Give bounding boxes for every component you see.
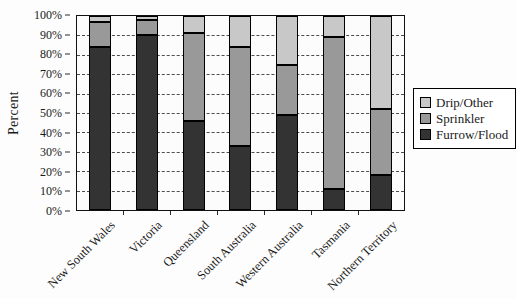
bar-segment-furrow-flood: [136, 35, 158, 210]
bar-segment-drip-other: [229, 16, 251, 47]
x-tick-mark: [123, 211, 124, 215]
stacked-bar: [276, 16, 298, 210]
x-category-label: Western Australia: [204, 218, 307, 299]
stacked-bar: [229, 16, 251, 210]
bar-segment-sprinkler: [136, 20, 158, 36]
legend-label: Drip/Other: [436, 95, 493, 110]
legend-swatch: [420, 129, 431, 140]
bar-segment-sprinkler: [370, 109, 392, 175]
bar-slot: [170, 16, 217, 210]
bar-segment-furrow-flood: [183, 121, 205, 210]
legend-swatch: [420, 97, 431, 108]
legend-item: Drip/Other: [420, 95, 508, 110]
x-tick-mark: [264, 211, 265, 215]
y-tick-mark: [65, 152, 70, 153]
stacked-bar: [136, 16, 158, 210]
x-tick-mark: [170, 211, 171, 215]
x-category-label: Tasmania: [251, 218, 354, 299]
y-axis-tick-labels: 100%90%80%70%60%50%40%30%20%10%0%: [0, 15, 70, 211]
y-tick-label: 0%: [46, 204, 62, 219]
bar-segment-drip-other: [136, 16, 158, 20]
x-tick-mark: [358, 211, 359, 215]
bar-segment-drip-other: [89, 16, 111, 22]
bar-slot: [357, 16, 404, 210]
bar-slot: [311, 16, 358, 210]
y-tick-mark: [65, 34, 70, 35]
y-tick-mark: [65, 171, 70, 172]
y-tick-mark: [65, 73, 70, 74]
bar-segment-sprinkler: [229, 47, 251, 146]
legend-label: Furrow/Flood: [436, 127, 508, 142]
x-category-label: South Australia: [157, 218, 260, 299]
bar-segment-drip-other: [183, 16, 205, 33]
x-category-label: Victoria: [63, 218, 166, 299]
y-tick-label: 90%: [40, 27, 62, 42]
stacked-bar: [370, 16, 392, 210]
y-tick-label: 10%: [40, 184, 62, 199]
bar-segment-sprinkler: [323, 37, 345, 188]
bar-segment-sprinkler: [276, 65, 298, 115]
bar-segment-sprinkler: [89, 22, 111, 47]
x-category-label: New South Wales: [16, 218, 119, 299]
bar-slot: [77, 16, 124, 210]
x-category-label: Queensland: [110, 218, 213, 299]
x-tick-mark: [311, 211, 312, 215]
x-category-label: Northern Territory: [298, 218, 401, 299]
legend-item: Sprinkler: [420, 111, 508, 126]
y-tick-mark: [65, 15, 70, 16]
y-tick-mark: [65, 211, 70, 212]
y-tick-label: 80%: [40, 47, 62, 62]
y-tick-mark: [65, 113, 70, 114]
legend-swatch: [420, 113, 431, 124]
legend-item: Furrow/Flood: [420, 127, 508, 142]
bar-segment-furrow-flood: [229, 146, 251, 210]
stacked-bar-chart: Percent 100%90%80%70%60%50%40%30%20%10%0…: [0, 0, 517, 299]
legend: Drip/OtherSprinklerFurrow/Flood: [413, 88, 516, 149]
bar-segment-drip-other: [323, 16, 345, 37]
bar-segment-furrow-flood: [276, 115, 298, 210]
y-tick-mark: [65, 191, 70, 192]
y-tick-label: 20%: [40, 164, 62, 179]
bar-segment-drip-other: [276, 16, 298, 65]
y-tick-label: 30%: [40, 145, 62, 160]
y-tick-label: 50%: [40, 106, 62, 121]
x-axis-tick-marks: [76, 211, 405, 216]
bar-segment-furrow-flood: [323, 189, 345, 210]
stacked-bar: [89, 16, 111, 210]
bar-segment-drip-other: [370, 16, 392, 109]
plot-area: [76, 15, 405, 211]
y-tick-label: 60%: [40, 86, 62, 101]
bar-slot: [264, 16, 311, 210]
y-tick-label: 100%: [34, 8, 62, 23]
bar-segment-furrow-flood: [370, 175, 392, 210]
y-tick-label: 40%: [40, 125, 62, 140]
bar-segment-furrow-flood: [89, 47, 111, 210]
y-tick-label: 70%: [40, 66, 62, 81]
stacked-bar: [183, 16, 205, 210]
y-tick-mark: [65, 93, 70, 94]
bar-segment-sprinkler: [183, 33, 205, 120]
y-tick-mark: [65, 132, 70, 133]
bar-slot: [217, 16, 264, 210]
x-tick-mark: [217, 211, 218, 215]
stacked-bar: [323, 16, 345, 210]
bar-slot: [124, 16, 171, 210]
y-tick-mark: [65, 54, 70, 55]
legend-label: Sprinkler: [436, 111, 484, 126]
